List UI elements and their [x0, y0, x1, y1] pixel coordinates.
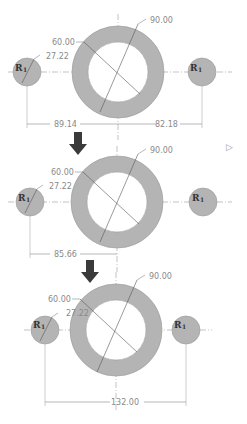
right-r-label: R — [190, 63, 198, 73]
outer-diameter-text[interactable]: 90.00 — [150, 146, 173, 155]
svg-text:1: 1 — [41, 323, 45, 330]
outer-diameter-text[interactable]: 90.00 — [149, 272, 172, 281]
panel-1: 90.00 60.00 27.22 R 1 R 1 89.14 82.18 — [8, 14, 232, 140]
left-r-label: R — [33, 320, 41, 330]
down-arrow-icon — [69, 132, 87, 155]
svg-text:1: 1 — [198, 66, 202, 73]
inner-diameter-text[interactable]: 60.00 — [52, 38, 75, 47]
svg-text:1: 1 — [182, 323, 186, 330]
svg-text:1: 1 — [26, 196, 30, 203]
dim-left-text[interactable]: 89.14 — [54, 120, 77, 129]
outer-diameter-text[interactable]: 90.00 — [150, 16, 173, 25]
right-r-label: R — [174, 320, 182, 330]
cursor-icon: ▷ — [226, 142, 233, 152]
inner-diameter-text[interactable]: 60.00 — [48, 295, 71, 304]
left-r-label: R — [15, 63, 23, 73]
small-diameter-text[interactable]: 27.22 — [66, 309, 89, 318]
svg-text:1: 1 — [23, 66, 27, 73]
dim-total-text[interactable]: 132.00 — [111, 398, 139, 407]
left-r-label: R — [18, 193, 26, 203]
down-arrow-icon — [81, 260, 99, 283]
right-r-label: R — [192, 193, 200, 203]
dim-left-text[interactable]: 85.66 — [54, 250, 77, 259]
panel-2: 90.00 60.00 27.22 R 1 R 1 85.66 — [8, 146, 232, 272]
inner-diameter-text[interactable]: 60.00 — [51, 168, 74, 177]
small-diameter-text[interactable]: 27.22 — [46, 52, 69, 61]
cad-diagram: 90.00 60.00 27.22 R 1 R 1 89.14 82.18 ▷ — [0, 0, 247, 424]
dim-right-text[interactable]: 82.18 — [155, 120, 178, 129]
panel-3: 90.00 60.00 27.22 R 1 R 1 132.00 — [24, 272, 212, 412]
svg-text:1: 1 — [200, 196, 204, 203]
small-diameter-text[interactable]: 27.22 — [49, 182, 72, 191]
